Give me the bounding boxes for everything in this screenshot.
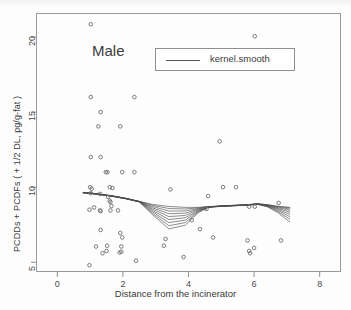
y-tick-label: 15: [27, 111, 37, 121]
legend-line-swatch: [166, 60, 200, 61]
y-tick-label: 20: [27, 36, 37, 46]
y-tick-label: 10: [27, 186, 37, 196]
x-axis-ticks: [57, 272, 319, 277]
y-axis-ticks: [31, 37, 36, 262]
chart-canvas: [0, 0, 351, 310]
y-axis-title: PCDDs + PCDFs ( + 1/2 DL, pg/g-fat ): [12, 96, 22, 252]
panel-label: Male: [92, 42, 125, 59]
chart-figure: 02468 5101520 PCDDs + PCDFs ( + 1/2 DL, …: [0, 0, 351, 310]
legend-box: kernel.smooth: [155, 48, 295, 71]
kernel-smooth-curves: [83, 192, 290, 229]
y-tick-label: 5: [27, 266, 37, 271]
legend-entry-label: kernel.smooth: [210, 53, 270, 64]
x-axis-title: Distance from the incinerator: [0, 288, 351, 299]
